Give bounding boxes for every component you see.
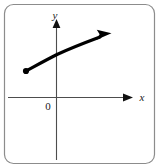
y-axis-label: y xyxy=(52,9,58,21)
x-axis-label: x xyxy=(139,91,145,103)
origin-label: 0 xyxy=(45,100,51,112)
curve-start-point-dot xyxy=(23,68,29,74)
figure-background xyxy=(0,0,159,168)
graph-figure: y x 0 xyxy=(0,0,159,168)
graph-canvas: y x 0 xyxy=(0,0,159,168)
